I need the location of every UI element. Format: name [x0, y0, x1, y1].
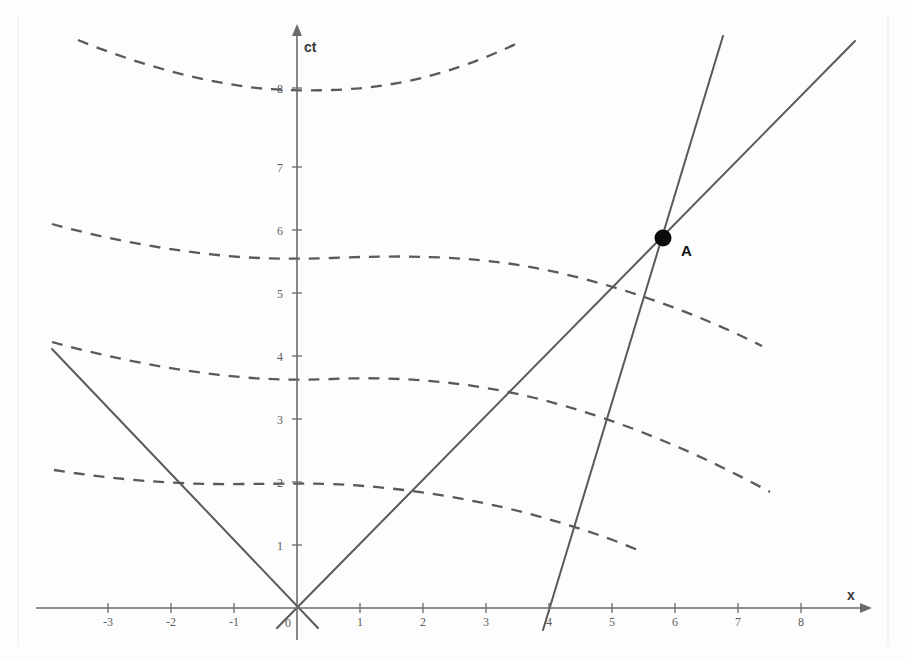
event-a-group: A — [655, 230, 693, 260]
x-tick-label: 8 — [798, 615, 804, 629]
paper-edges — [18, 14, 888, 646]
light-cone-right-line — [277, 41, 855, 628]
y-tick-label: 8 — [277, 82, 283, 96]
x-tick-label: 1 — [357, 615, 363, 629]
ct-axis-label: ct — [304, 39, 317, 55]
event-a-label: A — [681, 242, 692, 259]
x-tick-label: 3 — [483, 615, 489, 629]
x-tick-label: 6 — [672, 615, 678, 629]
worldline-group — [52, 36, 855, 630]
y-tick-label: 2 — [277, 476, 283, 490]
x-tick-label: 2 — [420, 615, 426, 629]
x-tick-label: 7 — [735, 615, 741, 629]
ct-axis-arrow — [292, 24, 302, 36]
x-axis-label: x — [847, 587, 855, 603]
hyperbola-tau-8 — [78, 40, 522, 90]
x-axis-arrow — [860, 603, 872, 613]
event-a-dot — [655, 230, 672, 247]
y-tick-label: 6 — [277, 224, 283, 238]
x-tick-label: -1 — [229, 615, 239, 629]
y-tick-label: 1 — [277, 539, 283, 553]
x-tick-label: -2 — [166, 615, 176, 629]
x-tick-label: -3 — [103, 615, 113, 629]
y-tick-group: 1 2 3 4 5 6 7 8 — [277, 82, 302, 553]
hyperbola-tau-2 — [54, 470, 640, 551]
minkowski-diagram: -3 -2 -1 1 2 3 4 5 6 7 8 1 — [0, 0, 910, 660]
figure-root: -3 -2 -1 1 2 3 4 5 6 7 8 1 — [0, 0, 910, 660]
y-tick-label: 3 — [277, 413, 283, 427]
hyperbola-group — [52, 40, 770, 551]
observer-worldline-line — [543, 36, 723, 630]
axes-group — [36, 24, 872, 640]
y-tick-label: 4 — [277, 350, 283, 364]
y-tick-label: 5 — [277, 287, 283, 301]
y-tick-label: 7 — [277, 161, 283, 175]
x-tick-label: 4 — [546, 615, 552, 629]
x-tick-label: 5 — [609, 615, 615, 629]
x-tick-group: -3 -2 -1 1 2 3 4 5 6 7 8 — [103, 603, 804, 629]
origin-label: 0 — [285, 616, 291, 630]
hyperbola-tau-4 — [52, 342, 770, 492]
